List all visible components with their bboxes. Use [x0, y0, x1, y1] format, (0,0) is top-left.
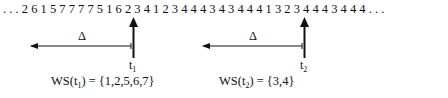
time-label-sub: 1: [132, 65, 136, 74]
working-set-1: WS(t1) = {1,2,5,6,7}: [51, 74, 155, 90]
time-marker-arrow-1: [129, 17, 138, 58]
delta-label-2: Δ: [249, 29, 257, 44]
time-label-sub: 2: [303, 65, 307, 74]
time-label-2: t2: [300, 58, 307, 74]
time-label-1: t1: [129, 58, 136, 74]
ws-prefix: WS(t: [51, 74, 77, 88]
working-set-2: WS(t2) = {3,4}: [219, 74, 294, 90]
delta-label-1: Δ: [78, 29, 86, 44]
time-marker-arrow-2: [300, 17, 309, 58]
ws-suffix: ) = {3,4}: [249, 74, 294, 88]
ws-suffix: ) = {1,2,5,6,7}: [81, 74, 154, 88]
ws-prefix: WS(t: [219, 74, 245, 88]
